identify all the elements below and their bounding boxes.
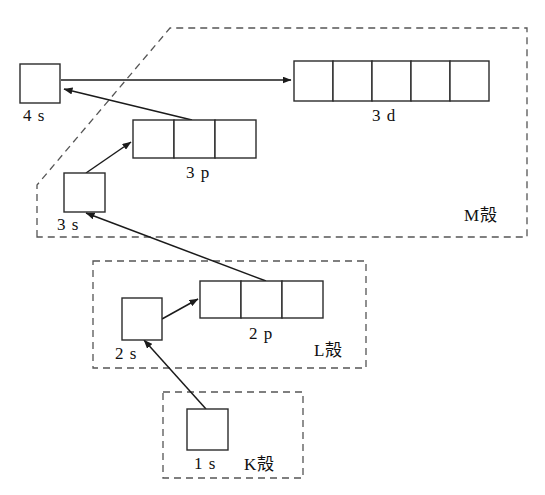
orbital-3s [64,173,105,212]
orbital-cell-3d-4[interactable] [411,61,450,101]
orbital-label-4s: 4 s [23,106,45,125]
orbital-label-2p: 2 p [249,324,273,343]
orbital-cell-2s-1[interactable] [122,298,162,340]
orbital-cell-3p-2[interactable] [174,120,215,158]
orbital-3p [133,120,256,158]
arrow-2p-to-3s [86,213,266,281]
arrow-1s-to-2s [144,340,206,409]
orbital-cell-2p-3[interactable] [282,281,323,318]
diagram-canvas: 4 s 3 d 3 p 3 s 2 p 2 s 1 s M殻 L殻 K殻 [0,0,545,495]
orbital-label-2s: 2 s [115,344,137,363]
orbital-label-1s: 1 s [194,454,216,473]
orbital-4s [20,64,60,103]
orbital-cell-4s-1[interactable] [20,64,60,103]
shell-label-k: K殻 [244,455,275,474]
orbital-3d [294,61,489,101]
orbital-filling-diagram: 4 s 3 d 3 p 3 s 2 p 2 s 1 s M殻 L殻 K殻 [0,0,545,495]
orbital-cell-3d-2[interactable] [333,61,372,101]
shell-label-l: L殻 [314,341,343,360]
orbital-cell-3p-1[interactable] [133,120,174,158]
orbital-cell-3s-1[interactable] [64,173,105,212]
orbital-label-3s: 3 s [57,215,79,234]
orbital-cell-2p-1[interactable] [200,281,241,318]
orbital-cell-2p-2[interactable] [241,281,282,318]
orbital-1s [187,409,228,450]
arrow-2s-to-2p [162,299,198,319]
orbital-cell-1s-1[interactable] [187,409,228,450]
orbital-2p [200,281,323,318]
shell-boundary-k [163,392,303,478]
shell-labels: M殻 L殻 K殻 [244,206,498,474]
orbital-cell-3d-5[interactable] [450,61,489,101]
orbital-label-3d: 3 d [372,106,396,125]
arrow-3s-to-3p [86,142,131,173]
orbital-cell-3d-3[interactable] [372,61,411,101]
orbital-cell-3p-3[interactable] [215,120,256,158]
shell-label-m: M殻 [464,206,498,225]
orbital-cell-3d-1[interactable] [294,61,333,101]
orbital-label-3p: 3 p [186,163,210,182]
arrow-3p-to-4s [64,89,192,120]
orbital-2s [122,298,162,340]
orbital-boxes [20,61,489,450]
shell-boundary-m [37,28,527,237]
